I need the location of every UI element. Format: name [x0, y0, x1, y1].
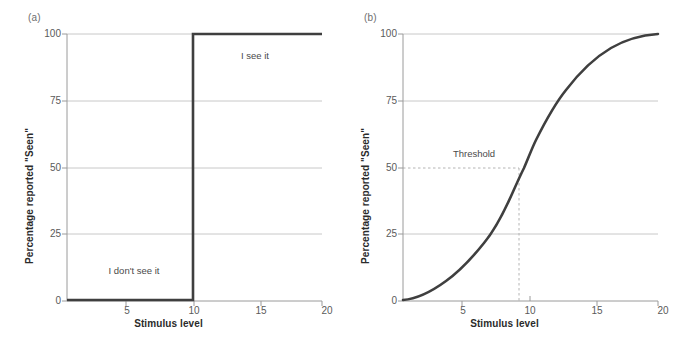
panel-b: (b) Percentage reported "Seen" Stimulus … — [336, 0, 673, 347]
panel-b-tick-marks — [398, 34, 658, 306]
figure-psychometric-threshold: (a) Percentage reported "Seen" Stimulus … — [0, 0, 673, 347]
panel-a-gridlines — [67, 34, 322, 234]
panel-b-plot — [336, 0, 673, 347]
panel-b-axes — [403, 34, 658, 301]
panel-b-gridlines — [403, 34, 658, 234]
panel-b-sigmoid-curve — [403, 34, 658, 300]
panel-a-step-curve — [67, 34, 322, 300]
panel-a: (a) Percentage reported "Seen" Stimulus … — [0, 0, 337, 347]
panel-a-plot — [0, 0, 337, 347]
